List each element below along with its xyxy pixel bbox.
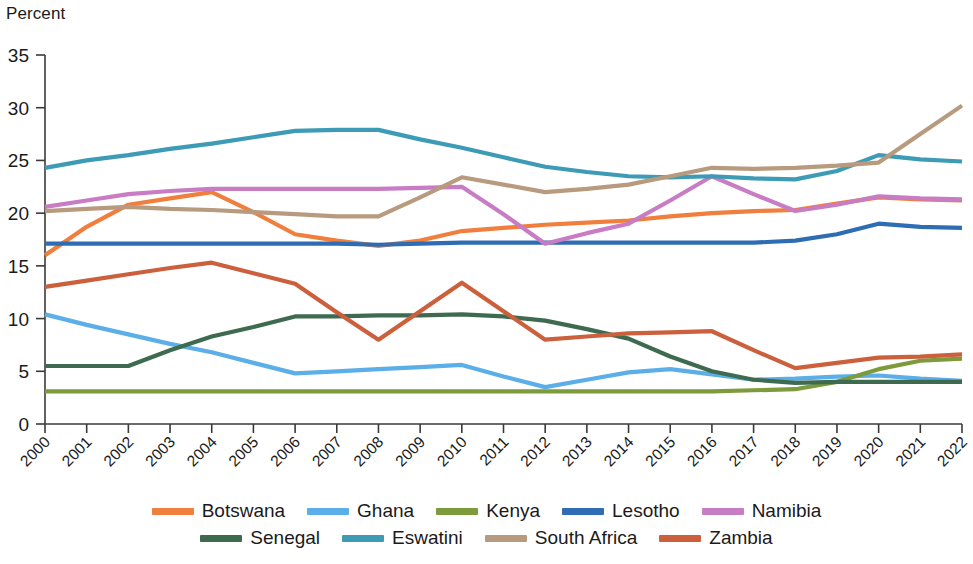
series-line-ghana [45,314,962,387]
x-axis-group: 2000200120022003200420052006200720082009… [17,424,970,470]
legend-item-botswana[interactable]: Botswana [152,500,285,522]
legend-item-zambia[interactable]: Zambia [659,527,772,549]
x-tick-label: 2018 [767,433,803,469]
legend-swatch-icon [200,535,242,542]
legend-item-eswatini[interactable]: Eswatini [342,527,463,549]
x-tick-label: 2008 [350,433,386,469]
legend-row: SenegalEswatiniSouth AfricaZambia [200,527,772,549]
legend-label: South Africa [535,527,637,549]
legend-item-senegal[interactable]: Senegal [200,527,320,549]
x-tick-label: 2006 [267,433,303,469]
y-tick-label: 35 [8,45,29,66]
y-tick-label: 20 [8,203,29,224]
x-tick-label: 2019 [809,433,845,469]
legend-label: Ghana [357,500,414,522]
legend-swatch-icon [342,535,384,542]
chart-legend: BotswanaGhanaKenyaLesothoNamibiaSenegalE… [0,500,973,549]
x-tick-label: 2012 [517,433,553,469]
legend-item-ghana[interactable]: Ghana [307,500,414,522]
y-tick-label: 0 [18,414,29,435]
x-tick-label: 2017 [725,433,761,469]
x-tick-label: 2007 [308,433,344,469]
x-tick-label: 2015 [642,433,678,469]
legend-item-lesotho[interactable]: Lesotho [562,500,680,522]
chart-container: Percent 05101520253035 20002001200220032… [0,0,973,564]
x-tick-label: 2010 [434,433,471,470]
plot-area: 05101520253035 2000200120022003200420052… [0,0,973,500]
series-line-botswana [45,192,962,255]
legend-row: BotswanaGhanaKenyaLesothoNamibia [152,500,822,522]
x-tick-label: 2022 [934,433,970,469]
x-tick-label: 2004 [183,433,220,470]
legend-swatch-icon [485,535,527,542]
y-tick-label: 25 [8,150,29,171]
x-tick-label: 2002 [100,433,136,469]
legend-item-kenya[interactable]: Kenya [436,500,540,522]
legend-label: Botswana [202,500,285,522]
legend-item-namibia[interactable]: Namibia [702,500,822,522]
legend-swatch-icon [702,508,744,515]
series-line-south-africa [45,106,962,217]
x-tick-label: 2009 [392,433,428,469]
y-tick-label: 10 [8,309,29,330]
legend-label: Senegal [250,527,320,549]
y-axis-group: 05101520253035 [8,45,45,435]
x-tick-label: 2003 [142,433,178,469]
legend-label: Lesotho [612,500,680,522]
x-tick-label: 2014 [600,433,637,470]
legend-swatch-icon [152,508,194,515]
series-group [45,106,962,392]
legend-label: Zambia [709,527,772,549]
legend-label: Eswatini [392,527,463,549]
x-tick-label: 2021 [892,433,928,469]
legend-swatch-icon [307,508,349,515]
x-tick-label: 2005 [225,433,261,469]
series-line-senegal [45,314,962,383]
legend-swatch-icon [562,508,604,515]
y-tick-label: 5 [18,361,29,382]
x-tick-label: 2000 [17,433,54,470]
y-tick-label: 30 [8,98,29,119]
x-tick-label: 2011 [476,433,512,469]
legend-swatch-icon [659,535,701,542]
x-tick-label: 2013 [559,433,595,469]
legend-item-south-africa[interactable]: South Africa [485,527,637,549]
y-tick-label: 15 [8,256,29,277]
x-tick-label: 2001 [58,433,94,469]
legend-swatch-icon [436,508,478,515]
x-tick-label: 2020 [850,433,887,470]
x-tick-label: 2016 [684,433,720,469]
legend-label: Namibia [752,500,822,522]
legend-label: Kenya [486,500,540,522]
series-line-eswatini [45,130,962,180]
